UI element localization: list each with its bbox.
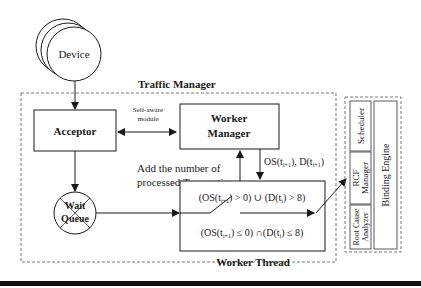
wait-queue-label-1: Wait — [65, 200, 86, 211]
condition-bottom: (OS(ti+1) ≤ 0) ∩(D(ti) ≤ 8) — [201, 227, 304, 239]
traffic-manager-label: Traffic Manager — [138, 78, 216, 90]
rcf-manager-label-2: Manager — [360, 162, 370, 194]
feedback-label-1: Add the number of — [137, 162, 221, 174]
device-label: Device — [58, 48, 89, 60]
acceptor-label: Acceptor — [54, 125, 97, 137]
wait-queue-label-2: Queue — [61, 213, 89, 224]
rca-label-1: Root Cause — [352, 208, 361, 246]
device-node: Device — [36, 19, 101, 81]
worker-manager-label-2: Manager — [208, 127, 251, 139]
wait-queue-node: Wait Queue — [54, 192, 96, 234]
worker-thread-label: Worker Thread — [216, 256, 290, 268]
bottom-rule — [0, 281, 421, 286]
worker-manager-label-1: Worker — [211, 112, 248, 124]
condition-top: (OS(ti+1) > 0) ∪ (D(ti) > 8) — [199, 192, 306, 204]
scheduler-label: Scheduler — [356, 108, 366, 144]
self-aware-label-1: Self-aware — [133, 106, 163, 114]
binding-engine-label: Binding Engine — [380, 143, 391, 207]
diagram-canvas: Device Traffic Manager Acceptor Self-awa… — [0, 0, 421, 288]
os-d-label: OS(ti+1), D(ti+1) — [264, 156, 324, 168]
rca-label-2: Analyzer — [361, 212, 370, 242]
self-aware-label-2: module — [138, 115, 159, 123]
